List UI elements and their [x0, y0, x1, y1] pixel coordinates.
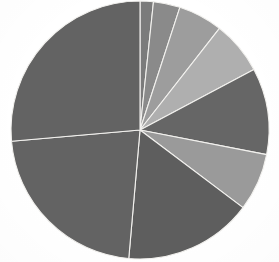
pie-slices-group: Segment 1: 1.7%Segment 2: 3.3%Segment 3:… — [11, 1, 269, 259]
pie-chart: Segment 1: 1.7%Segment 2: 3.3%Segment 3:… — [0, 0, 279, 262]
pie-chart-page: Segment 1: 1.7%Segment 2: 3.3%Segment 3:… — [0, 0, 279, 262]
pie-slice[interactable]: Segment 8: 22.2% — [11, 130, 140, 259]
pie-slice[interactable]: Segment 9: 26.4% — [11, 1, 140, 141]
